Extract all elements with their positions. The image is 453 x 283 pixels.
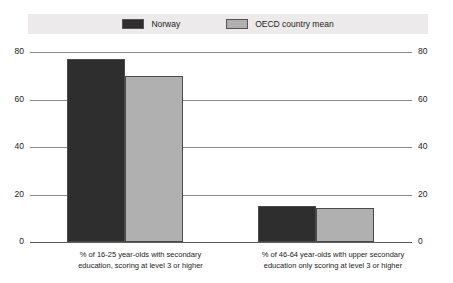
y-axis-left-tick-40: 40 xyxy=(15,142,24,151)
legend-item-oecd-country-mean: OECD country mean xyxy=(226,19,333,29)
legend-swatch-oecd-country-mean xyxy=(226,19,248,29)
x-axis-category-label-2: % of 46-64 year-olds with upper secondar… xyxy=(238,250,428,271)
y-axis-left-tick-60: 60 xyxy=(15,95,24,104)
x-axis-category-label-1-line-1: % of 16-25 year-olds with secondary xyxy=(53,250,228,261)
bar-chart: Norway OECD country mean 80 80 60 60 40 … xyxy=(0,0,453,283)
x-axis-category-label-1: % of 16-25 year-olds with secondary educ… xyxy=(53,250,228,271)
legend-label-oecd-country-mean: OECD country mean xyxy=(255,19,333,29)
gridline-0-baseline: 0 0 xyxy=(30,242,412,243)
x-axis-category-label-2-line-1: % of 46-64 year-olds with upper secondar… xyxy=(238,250,428,261)
chart-legend: Norway OECD country mean xyxy=(28,14,428,34)
y-axis-right-tick-80: 80 xyxy=(418,47,427,56)
plot-area: 80 80 60 60 40 40 20 20 0 0 xyxy=(30,52,412,242)
bar-oecd-group-1 xyxy=(125,76,183,242)
bar-oecd-group-2 xyxy=(316,208,374,242)
y-axis-right-tick-60: 60 xyxy=(418,95,427,104)
gridline-80: 80 80 xyxy=(30,52,412,53)
legend-swatch-norway xyxy=(122,19,144,29)
x-axis-category-label-2-line-2: education only scoring at level 3 or hig… xyxy=(238,261,428,272)
legend-label-norway: Norway xyxy=(151,19,180,29)
y-axis-left-tick-80: 80 xyxy=(15,47,24,56)
y-axis-left-tick-20: 20 xyxy=(15,190,24,199)
y-axis-right-tick-20: 20 xyxy=(418,190,427,199)
bar-norway-group-1 xyxy=(67,59,125,242)
y-axis-right-tick-0: 0 xyxy=(418,237,423,246)
y-axis-right-tick-40: 40 xyxy=(418,142,427,151)
y-axis-left-tick-0: 0 xyxy=(19,237,24,246)
legend-item-norway: Norway xyxy=(122,19,180,29)
bar-norway-group-2 xyxy=(258,206,316,242)
x-axis-category-label-1-line-2: education, scoring at level 3 or higher xyxy=(53,261,228,272)
